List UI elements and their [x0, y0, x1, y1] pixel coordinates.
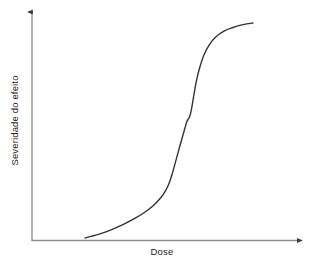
dose-response-curve [85, 23, 253, 238]
dose-response-chart: Severidade do efeito Dose [0, 0, 316, 266]
y-axis-label: Severidade do efeito [9, 75, 20, 165]
x-axis-label: Dose [0, 246, 316, 257]
y-axis-label-container: Severidade do efeito [0, 0, 28, 240]
chart-canvas [0, 0, 316, 266]
